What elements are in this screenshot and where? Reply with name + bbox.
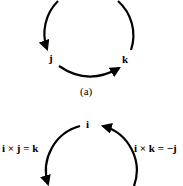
node-k: k: [122, 54, 128, 65]
cross-product-right-label: i × k = −j: [134, 143, 177, 154]
node-j: j: [49, 53, 53, 64]
arc-left-b: [46, 126, 80, 184]
arc-bottom: [59, 66, 119, 77]
caption-a: (a): [80, 86, 92, 97]
arc-top-left: [44, 1, 58, 49]
cross-product-left-label: i × j = k: [2, 143, 38, 154]
arc-right-b: [103, 126, 137, 186]
arc-top-right: [118, 1, 133, 50]
node-i: i: [86, 119, 89, 130]
